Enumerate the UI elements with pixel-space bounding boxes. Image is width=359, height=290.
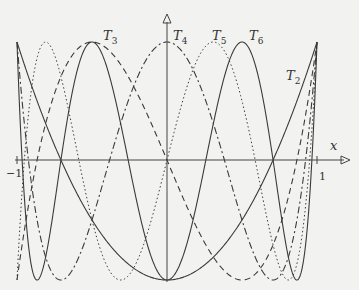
label-T6: T6 (249, 28, 263, 46)
label-T2: T2 (286, 68, 300, 86)
label-T4: T4 (173, 28, 187, 46)
label-T5: T5 (212, 28, 226, 46)
y-axis-arrow-icon (163, 14, 171, 23)
label-T3: T3 (103, 28, 117, 46)
tick-label-neg1: −1 (6, 167, 22, 180)
x-axis-label: x (330, 138, 337, 153)
tick-label-pos1: 1 (319, 170, 326, 183)
